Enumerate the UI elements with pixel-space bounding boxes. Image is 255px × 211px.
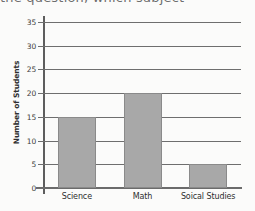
x-axis-tick-labels: ScienceMathSoical Studies bbox=[0, 0, 255, 211]
y-axis-tick-mark bbox=[38, 22, 44, 23]
x-axis-tick-label: Soical Studies bbox=[158, 192, 255, 201]
y-axis-tick-mark bbox=[38, 93, 44, 94]
y-axis-tick-mark bbox=[38, 188, 44, 189]
y-axis-tick-mark bbox=[38, 164, 44, 165]
y-axis-tick-mark bbox=[38, 46, 44, 47]
y-axis-tick-mark bbox=[38, 69, 44, 70]
y-axis-tick-mark bbox=[38, 117, 44, 118]
y-axis-tick-mark bbox=[38, 141, 44, 142]
bar-chart-figure: Number of Students 05101520253035 Scienc… bbox=[0, 0, 255, 211]
